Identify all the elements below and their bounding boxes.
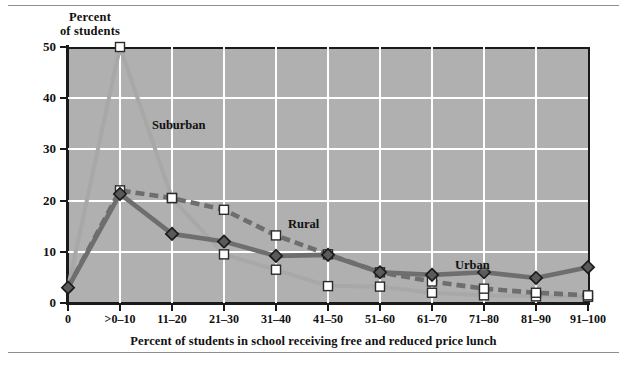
x-axis-title: Percent of students in school receiving … xyxy=(0,334,627,349)
data-point-rural-2 xyxy=(168,194,177,203)
data-point-rural-10 xyxy=(584,291,593,300)
data-point-suburban-1 xyxy=(116,43,125,52)
data-point-rural-9 xyxy=(532,288,541,297)
data-point-suburban-5 xyxy=(324,282,333,291)
data-point-suburban-4 xyxy=(272,265,281,274)
data-point-suburban-3 xyxy=(220,250,229,259)
series-label-rural: Rural xyxy=(288,217,319,232)
data-point-rural-4 xyxy=(272,231,281,240)
series-label-urban: Urban xyxy=(455,258,490,273)
chart-figure: Percent of students 01020304050 0>0–1011… xyxy=(0,0,627,365)
data-point-rural-3 xyxy=(220,205,229,214)
data-point-urban-9 xyxy=(530,272,542,284)
series-line-urban xyxy=(68,194,588,288)
data-point-urban-10 xyxy=(582,261,594,273)
data-point-rural-8 xyxy=(480,284,489,293)
series-line-rural xyxy=(68,190,588,295)
series-label-suburban: Suburban xyxy=(152,118,206,133)
series-lines xyxy=(0,0,627,365)
data-point-suburban-7 xyxy=(428,288,437,297)
data-point-urban-4 xyxy=(270,250,282,262)
data-point-suburban-6 xyxy=(376,282,385,291)
data-point-urban-3 xyxy=(218,235,230,247)
